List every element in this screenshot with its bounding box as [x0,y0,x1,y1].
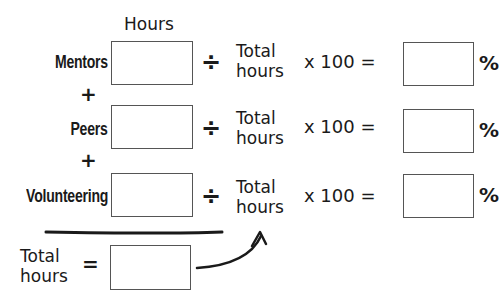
total-label-line-2: hours [20,266,68,286]
total-label-line-1: Total [20,246,68,266]
total-hours-label: Total hours [20,246,68,286]
total-hours-input[interactable] [110,245,191,290]
sum-underline [46,232,222,233]
arrow-curve [197,236,261,268]
equals-icon: = [82,252,99,276]
